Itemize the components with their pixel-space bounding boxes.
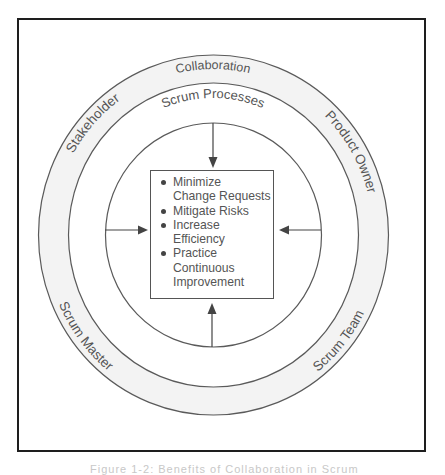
benefit-item: Increase Efficiency (157, 218, 273, 247)
benefit-item: Practice Continuous Improvement (157, 246, 273, 289)
benefit-line: Practice (173, 246, 273, 260)
benefits-list: Minimize Change Requests Mitigate Risks … (157, 175, 273, 289)
benefit-line: Change Requests (173, 189, 273, 203)
bullet-icon (161, 223, 166, 228)
benefit-line: Mitigate Risks (173, 204, 273, 218)
benefit-line: Improvement (173, 275, 273, 289)
benefit-line: Efficiency (173, 232, 273, 246)
benefit-line: Continuous (173, 261, 273, 275)
benefits-box: Minimize Change Requests Mitigate Risks … (150, 170, 274, 299)
benefit-line: Increase (173, 218, 273, 232)
benefit-item: Mitigate Risks (157, 204, 273, 218)
bullet-icon (161, 209, 166, 214)
bullet-icon (161, 180, 166, 185)
benefit-item: Minimize Change Requests (157, 175, 273, 204)
figure-caption: Figure 1-2: Benefits of Collaboration in… (90, 463, 359, 475)
benefit-line: Minimize (173, 175, 273, 189)
bullet-icon (161, 251, 166, 256)
